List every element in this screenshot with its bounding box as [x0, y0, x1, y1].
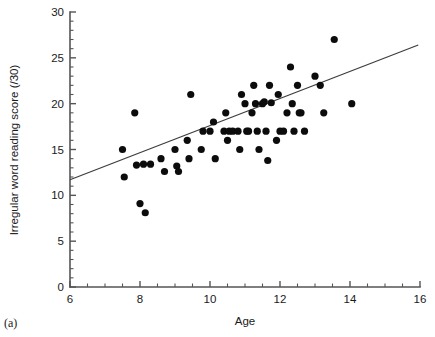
scatter-point: [131, 109, 138, 116]
scatter-point: [266, 82, 273, 89]
x-axis-tick-label: 6: [67, 293, 73, 305]
y-axis-tick-label: 30: [51, 6, 64, 18]
scatter-point: [287, 63, 294, 70]
x-axis-tick-label: 16: [414, 293, 427, 305]
scatter-point: [250, 82, 257, 89]
y-axis-tick-label: 20: [51, 98, 64, 110]
scatter-point: [268, 99, 275, 106]
scatter-point: [210, 118, 217, 125]
scatter-point: [206, 128, 213, 135]
scatter-point: [264, 157, 271, 164]
scatter-plot: 6810121416051015202530 Age Irregular wor…: [0, 0, 435, 337]
scatter-point: [236, 146, 243, 153]
scatter-point: [142, 209, 149, 216]
regression-fit-line: [70, 45, 418, 180]
x-axis-tick-label: 14: [344, 293, 357, 305]
scatter-point: [241, 100, 248, 107]
y-axis-tick-label: 10: [51, 189, 64, 201]
scatter-point: [161, 168, 168, 175]
scatter-point: [254, 128, 261, 135]
scatter-point: [121, 173, 128, 180]
x-axis-title: Age: [235, 315, 255, 327]
data-points: [119, 36, 355, 216]
scatter-point: [157, 155, 164, 162]
y-axis-tick-label: 25: [51, 52, 64, 64]
scatter-point: [290, 128, 297, 135]
scatter-point: [320, 109, 327, 116]
scatter-point: [245, 128, 252, 135]
scatter-point: [283, 109, 290, 116]
scatter-point: [348, 100, 355, 107]
scatter-point: [297, 109, 304, 116]
scatter-point: [252, 100, 259, 107]
scatter-point: [234, 128, 241, 135]
regression-line: [70, 45, 418, 180]
scatter-point: [317, 82, 324, 89]
scatter-point: [198, 146, 205, 153]
axes: 6810121416051015202530: [51, 6, 426, 305]
scatter-point: [171, 146, 178, 153]
scatter-point: [275, 91, 282, 98]
scatter-point: [289, 100, 296, 107]
scatter-point: [273, 137, 280, 144]
x-axis-tick-label: 12: [274, 293, 287, 305]
scatter-point: [136, 200, 143, 207]
scatter-point: [331, 36, 338, 43]
scatter-point: [147, 161, 154, 168]
figure-container: 6810121416051015202530 Age Irregular wor…: [0, 0, 435, 337]
scatter-point: [261, 98, 268, 105]
scatter-point: [212, 155, 219, 162]
scatter-point: [184, 137, 191, 144]
x-axis-tick-label: 8: [137, 293, 143, 305]
scatter-point: [133, 161, 140, 168]
scatter-point: [175, 168, 182, 175]
scatter-point: [255, 146, 262, 153]
scatter-point: [280, 128, 287, 135]
scatter-point: [224, 137, 231, 144]
scatter-point: [301, 128, 308, 135]
scatter-point: [294, 82, 301, 89]
scatter-point: [222, 109, 229, 116]
scatter-point: [311, 73, 318, 80]
scatter-point: [199, 128, 206, 135]
y-axis-title: Irregular word reading score (/30): [8, 65, 20, 236]
scatter-point: [140, 161, 147, 168]
scatter-point: [248, 109, 255, 116]
y-axis-tick-label: 5: [58, 235, 64, 247]
scatter-point: [238, 91, 245, 98]
x-axis-tick-label: 10: [204, 293, 217, 305]
scatter-point: [262, 128, 269, 135]
y-axis-tick-label: 15: [51, 144, 64, 156]
panel-label: (a): [4, 316, 17, 330]
y-axis-tick-label: 0: [58, 281, 64, 293]
scatter-point: [187, 91, 194, 98]
scatter-point: [119, 146, 126, 153]
scatter-point: [185, 155, 192, 162]
